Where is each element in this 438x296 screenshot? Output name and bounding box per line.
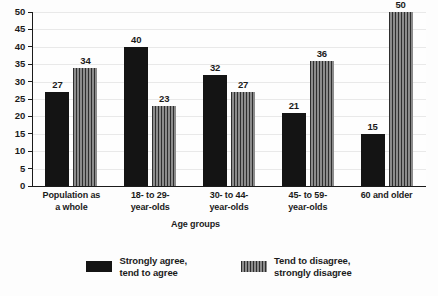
bar: 34 xyxy=(73,68,97,186)
y-axis-tick: 0 xyxy=(0,180,32,192)
legend-item[interactable]: Tend to disagree, strongly disagree xyxy=(241,255,352,278)
bar-group: 2136 xyxy=(268,12,347,186)
y-axis-tick: 30 xyxy=(0,76,32,88)
x-axis-title: Age groups xyxy=(171,219,220,229)
bar: 21 xyxy=(282,113,306,186)
bar-group: 2734 xyxy=(32,12,111,186)
y-axis-tick: 15 xyxy=(0,128,32,140)
bar-value-label: 15 xyxy=(367,121,377,132)
chart-legend: Strongly agree, tend to agreeTend to dis… xyxy=(0,255,438,278)
legend-label: Strongly agree, tend to agree xyxy=(119,255,187,278)
bar-value-label: 36 xyxy=(317,48,327,59)
y-axis-tick: 50 xyxy=(0,6,32,18)
bar: 27 xyxy=(231,92,255,186)
legend-item[interactable]: Strongly agree, tend to agree xyxy=(86,255,187,278)
y-axis-tick-label: 10 xyxy=(15,145,25,157)
y-axis-tick-label: 40 xyxy=(15,41,25,53)
y-axis-tick: 45 xyxy=(0,23,32,35)
x-axis-category-label: 60 and older xyxy=(347,190,426,202)
bar: 40 xyxy=(124,47,148,186)
bar-value-label: 27 xyxy=(238,79,248,90)
legend-swatch-icon xyxy=(241,261,267,272)
y-axis-tick-label: 35 xyxy=(15,58,25,70)
bar-value-label: 27 xyxy=(52,79,62,90)
y-axis-tick: 20 xyxy=(0,110,32,122)
y-axis-tick-label: 15 xyxy=(15,128,25,140)
y-axis-tick-label: 50 xyxy=(15,6,25,18)
y-axis-tick-label: 20 xyxy=(15,110,25,122)
bar: 27 xyxy=(45,92,69,186)
x-axis-category-label: 30- to 44-year-olds xyxy=(190,190,269,213)
bar-value-label: 34 xyxy=(80,55,90,66)
y-axis-tick: 10 xyxy=(0,145,32,157)
y-axis-tick: 40 xyxy=(0,41,32,53)
legend-swatch-icon xyxy=(86,261,112,272)
bar: 50 xyxy=(389,12,413,186)
bar-value-label: 23 xyxy=(159,93,169,104)
bar-value-label: 50 xyxy=(395,0,405,10)
bar-group: 1550 xyxy=(347,12,426,186)
y-axis-tick: 5 xyxy=(0,163,32,175)
x-axis-line xyxy=(32,186,426,187)
bar: 36 xyxy=(310,61,334,186)
y-axis-tick: 35 xyxy=(0,58,32,70)
y-axis-tick: 25 xyxy=(0,93,32,105)
x-axis-category-label: 45- to 59-year-olds xyxy=(268,190,347,213)
bar: 23 xyxy=(152,106,176,186)
y-axis-tick-label: 25 xyxy=(15,93,25,105)
bar-chart: 05101520253035404550 2734402332272136155… xyxy=(0,0,438,296)
legend-label: Tend to disagree, strongly disagree xyxy=(274,255,352,278)
bar-group: 3227 xyxy=(190,12,269,186)
bar: 15 xyxy=(361,134,385,186)
y-axis-tick-label: 0 xyxy=(20,180,25,192)
y-axis-tick-label: 5 xyxy=(20,163,25,175)
bar-value-label: 32 xyxy=(210,62,220,73)
y-axis-tick-label: 45 xyxy=(15,23,25,35)
x-axis-category-label: 18- to 29-year-olds xyxy=(111,190,190,213)
y-axis-tick-label: 30 xyxy=(15,76,25,88)
x-axis-category-label: Population asa whole xyxy=(32,190,111,213)
bar-value-label: 21 xyxy=(289,100,299,111)
bar-value-label: 40 xyxy=(131,34,141,45)
bar-group: 4023 xyxy=(111,12,190,186)
bar: 32 xyxy=(203,75,227,186)
